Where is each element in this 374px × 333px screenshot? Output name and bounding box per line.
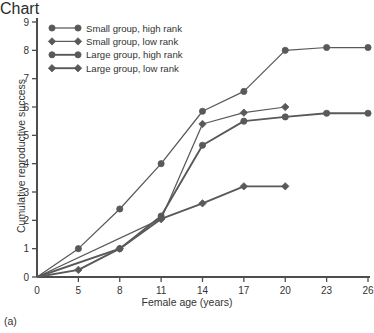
y-tick-label: 9 (23, 17, 29, 28)
data-point (282, 183, 289, 190)
y-axis-title: Cumulative reproductive success (15, 66, 27, 246)
y-tick-label: 0 (23, 272, 29, 283)
x-axis-title: Female age (years) (0, 296, 374, 308)
legend-label: Large group, high rank (86, 49, 183, 60)
legend-marker-left (49, 52, 55, 58)
x-tick-label: 23 (321, 285, 333, 296)
figure-panel-a: Cumulative reproductive success 01234567… (0, 0, 374, 333)
data-point (282, 103, 289, 110)
data-point (241, 118, 247, 124)
legend-marker-right (75, 25, 81, 31)
series-line (37, 48, 368, 278)
legend-label: Small group, high rank (86, 23, 182, 34)
legend-marker-right (75, 52, 81, 58)
data-point (324, 44, 330, 50)
legend-item-4: Large group, low rank (48, 63, 179, 74)
legend-marker-left (48, 38, 55, 45)
data-point (75, 246, 81, 252)
x-tick-label: 5 (76, 285, 82, 296)
data-point (365, 110, 371, 116)
data-point (75, 266, 82, 273)
legend-marker-right (74, 38, 81, 45)
data-point (199, 120, 206, 127)
data-point (240, 183, 247, 190)
x-tick-label: 20 (280, 285, 292, 296)
legend-item-1: Small group, high rank (49, 23, 182, 34)
data-point (240, 109, 247, 116)
data-point (282, 114, 288, 120)
series-4 (37, 183, 289, 277)
x-tick-label: 26 (362, 285, 374, 296)
legend-item-3: Large group, high rank (49, 49, 183, 60)
data-point (158, 161, 164, 167)
series-1 (37, 44, 371, 277)
data-point (324, 110, 330, 116)
data-series-layer (37, 44, 371, 277)
x-axis-ticks: 058111417202326 (34, 277, 374, 296)
y-tick-label: 8 (23, 45, 29, 56)
chart-legend: Small group, high rankSmall group, low r… (48, 23, 182, 74)
data-point (199, 142, 205, 148)
x-tick-label: 11 (156, 285, 167, 296)
x-tick-label: 0 (34, 285, 40, 296)
x-tick-label: 14 (197, 285, 209, 296)
legend-marker-left (49, 25, 55, 31)
data-point (241, 88, 247, 94)
legend-marker-left (48, 65, 55, 72)
legend-label: Small group, low rank (86, 36, 178, 47)
series-line (37, 113, 368, 277)
data-point (117, 206, 123, 212)
series-3 (37, 110, 371, 277)
data-point (365, 44, 371, 50)
data-point (199, 200, 206, 207)
panel-label: (a) (4, 315, 17, 327)
x-tick-label: 8 (117, 285, 123, 296)
legend-label: Large group, low rank (86, 63, 179, 74)
chart-plot-area: 0123456789 058111417202326 Small group, … (0, 0, 374, 296)
data-point (282, 47, 288, 53)
data-point (199, 108, 205, 114)
legend-marker-right (74, 65, 81, 72)
legend-item-2: Small group, low rank (48, 36, 178, 47)
x-tick-label: 17 (238, 285, 250, 296)
